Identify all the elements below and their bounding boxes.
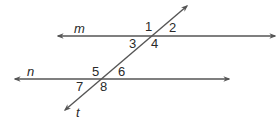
angle-label-2: 2 <box>169 20 176 35</box>
diagram-canvas: m n t 1 2 3 4 5 6 7 8 <box>0 0 278 120</box>
angle-label-1: 1 <box>145 19 152 34</box>
angle-label-7: 7 <box>76 79 83 94</box>
angle-label-3: 3 <box>129 36 136 51</box>
line-label-m: m <box>74 21 85 36</box>
angle-label-8: 8 <box>100 79 107 94</box>
line-label-n: n <box>27 64 34 79</box>
angle-label-6: 6 <box>118 64 125 79</box>
angle-label-4: 4 <box>151 36 158 51</box>
angle-label-5: 5 <box>92 64 99 79</box>
line-label-t: t <box>76 105 81 120</box>
